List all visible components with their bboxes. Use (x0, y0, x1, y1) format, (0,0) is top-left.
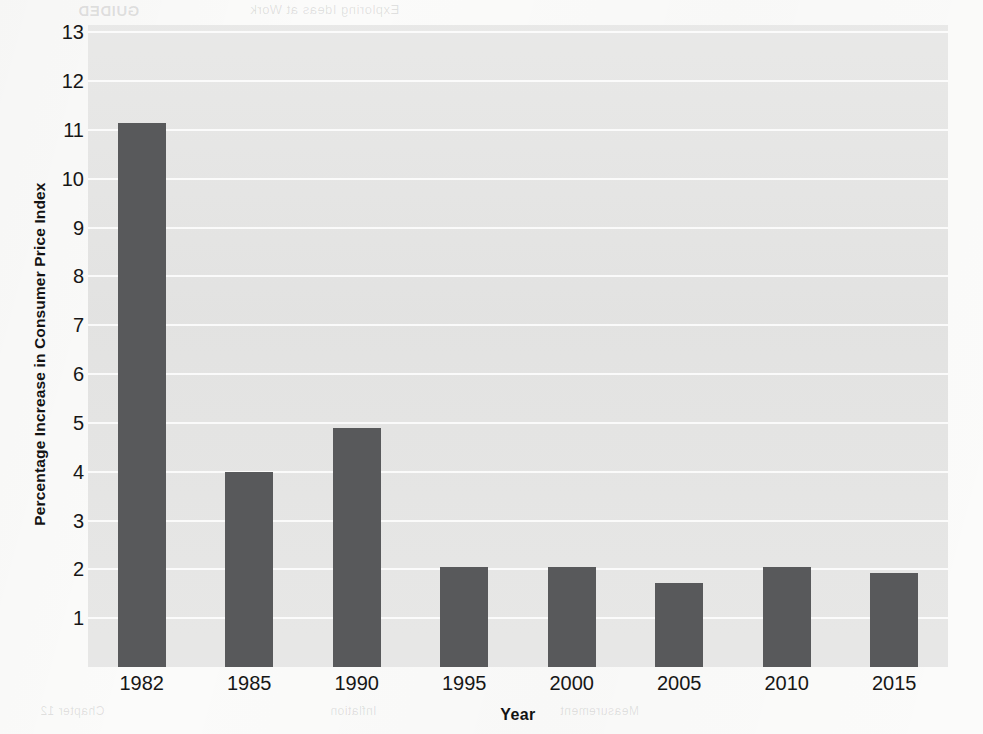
bar (118, 123, 166, 667)
y-axis-tick-label: 5 (24, 413, 84, 433)
y-axis-tick-label: 2 (24, 559, 84, 579)
x-axis-tick-label: 1985 (227, 672, 272, 695)
y-axis-tick-label: 10 (24, 169, 84, 189)
bar-series (88, 25, 948, 667)
x-axis-tick-label: 1995 (442, 672, 487, 695)
bar (333, 428, 381, 667)
bar (440, 567, 488, 667)
x-axis-tick-label: 1990 (335, 672, 380, 695)
y-axis-tick-label: 8 (24, 266, 84, 286)
x-axis-tick-label: 1982 (120, 672, 165, 695)
x-axis-tick-label: 2010 (765, 672, 810, 695)
x-axis-tick-labels: 19821985199019952000200520102015 (88, 672, 948, 706)
y-axis-tick-labels: 12345678910111213 (24, 25, 84, 667)
bar (763, 567, 811, 667)
plot-area (88, 25, 948, 667)
y-axis-tick-label: 6 (24, 364, 84, 384)
x-axis-tick-label: 2015 (872, 672, 917, 695)
bar (548, 567, 596, 667)
y-axis-tick-label: 11 (24, 120, 84, 140)
y-axis-tick-label: 13 (24, 22, 84, 42)
bar-chart: Percentage Increase in Consumer Price In… (0, 0, 983, 734)
y-axis-tick-label: 7 (24, 315, 84, 335)
y-axis-tick-label: 4 (24, 462, 84, 482)
y-axis-tick-label: 9 (24, 218, 84, 238)
y-axis-tick-label: 12 (24, 71, 84, 91)
x-axis-tick-label: 2005 (657, 672, 702, 695)
x-axis-tick-label: 2000 (550, 672, 595, 695)
bar (225, 472, 273, 667)
y-axis-tick-label: 1 (24, 608, 84, 628)
bar (870, 573, 918, 667)
bar (655, 583, 703, 667)
y-axis-tick-label: 3 (24, 511, 84, 531)
x-axis-title: Year (88, 706, 948, 724)
